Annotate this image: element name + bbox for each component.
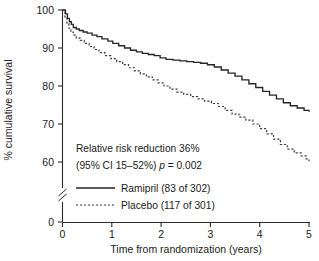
legend-entry-ramipril: Ramipril (83 of 302) xyxy=(76,183,210,194)
y-tick-label-90: 90 xyxy=(42,42,54,54)
y-tick-label-70: 70 xyxy=(42,118,54,130)
annotation-risk-reduction: Relative risk reduction 36% xyxy=(76,143,199,154)
ramipril-survival-curve xyxy=(63,10,310,112)
legend-entry-placebo: Placebo (117 of 301) xyxy=(76,200,215,211)
legend: Ramipril (83 of 302) Placebo (117 of 301… xyxy=(76,183,215,211)
annotation-p-value: = 0.002 xyxy=(165,160,202,171)
y-tick-label-0: 0 xyxy=(48,216,54,228)
y-tick-label-80: 80 xyxy=(42,80,54,92)
x-tick-label-5: 5 xyxy=(306,228,312,240)
annotation-ci-prefix: (95% CI 15–52%) xyxy=(76,160,159,171)
x-tick-label-1: 1 xyxy=(109,228,115,240)
placebo-survival-curve xyxy=(63,10,310,161)
x-tick-label-0: 0 xyxy=(60,228,66,240)
x-tick-label-2: 2 xyxy=(158,228,164,240)
x-tick-label-3: 3 xyxy=(207,228,213,240)
legend-label-placebo: Placebo (117 of 301) xyxy=(121,200,215,211)
x-tick-label-4: 4 xyxy=(257,228,263,240)
x-axis-title: Time from randomization (years) xyxy=(110,243,261,255)
km-plot-svg: 100 90 80 70 60 0 0 1 2 3 4 5 xyxy=(0,0,319,261)
y-tick-label-60: 60 xyxy=(42,156,54,168)
annotation-ci-pvalue: (95% CI 15–52%) p = 0.002 xyxy=(76,160,202,171)
survival-chart: 100 90 80 70 60 0 0 1 2 3 4 5 xyxy=(0,0,319,261)
y-tick-label-100: 100 xyxy=(36,4,54,16)
legend-label-ramipril: Ramipril (83 of 302) xyxy=(121,183,210,194)
x-axis-ticks: 0 1 2 3 4 5 xyxy=(60,223,313,241)
y-axis-title: % cumulative survival xyxy=(2,60,14,161)
